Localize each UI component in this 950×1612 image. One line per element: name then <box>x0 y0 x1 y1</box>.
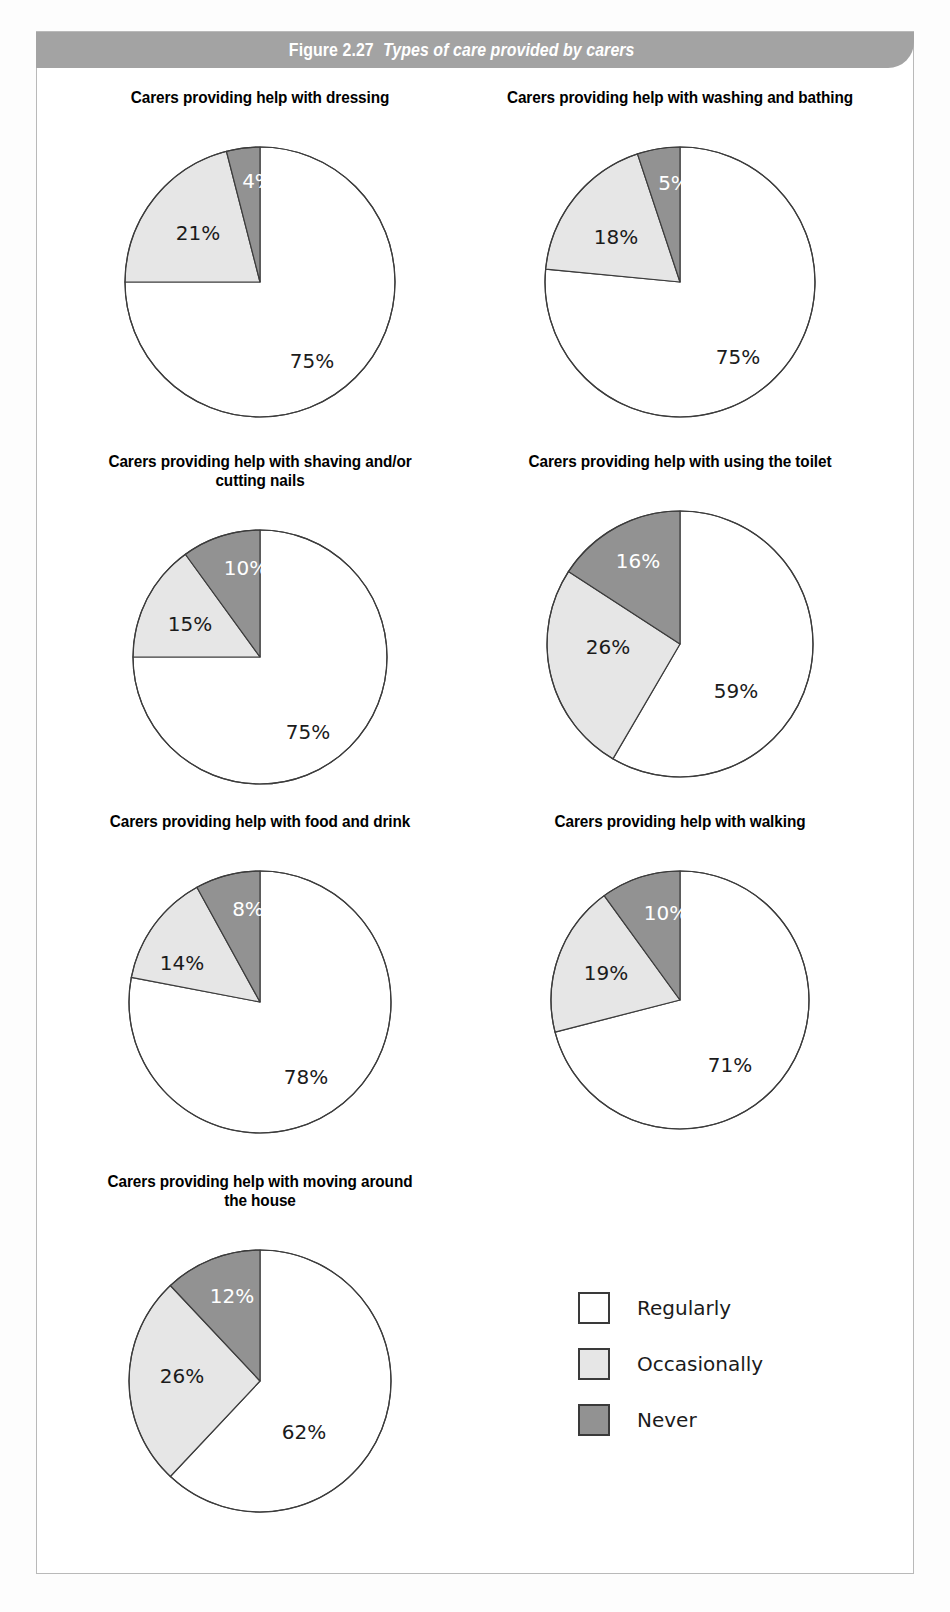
pie-label-never: 12% <box>210 1284 254 1308</box>
pie-label-occasionally: 15% <box>168 612 212 636</box>
chart-title-dressing: Carers providing help with dressing <box>65 88 456 107</box>
legend-item-never[interactable]: Never <box>578 1392 878 1448</box>
pie-washing-bathing: 75%18%5% <box>511 113 849 451</box>
legend-label-regularly: Regularly <box>637 1296 731 1320</box>
pie-label-occasionally: 26% <box>586 635 630 659</box>
legend-item-regularly[interactable]: Regularly <box>578 1280 878 1336</box>
legend-item-occasionally[interactable]: Occasionally <box>578 1336 878 1392</box>
pie-label-occasionally: 19% <box>584 961 628 985</box>
figure-header-text: Figure 2.27 Types of care provided by ca… <box>36 32 914 68</box>
pie-label-regularly: 59% <box>714 679 758 703</box>
pie-label-occasionally: 14% <box>160 951 204 975</box>
figure-page: Figure 2.27 Types of care provided by ca… <box>0 0 950 1612</box>
pie-chart-panel-walking: Carers providing help with walking71%19%… <box>460 812 900 1163</box>
pie-label-regularly: 78% <box>284 1065 328 1089</box>
pie-walking: 71%19%10% <box>517 837 843 1163</box>
chart-title-washing-bathing: Carers providing help with washing and b… <box>475 88 884 107</box>
pie-label-regularly: 71% <box>708 1053 752 1077</box>
chart-title-moving-around-house: Carers providing help with moving around… <box>65 1172 456 1210</box>
pie-label-never: 5% <box>658 171 690 195</box>
pie-label-occasionally: 18% <box>594 225 638 249</box>
pie-label-never: 10% <box>224 556 268 580</box>
figure-title: Types of care provided by carers <box>383 39 635 61</box>
pie-label-occasionally: 21% <box>176 221 220 245</box>
pie-label-regularly: 75% <box>286 720 330 744</box>
pie-food-drink: 78%14%8% <box>95 837 425 1167</box>
pie-label-occasionally: 26% <box>160 1364 204 1388</box>
legend-swatch-never <box>578 1404 610 1436</box>
legend-swatch-regularly <box>578 1292 610 1324</box>
pie-chart-panel-food-drink: Carers providing help with food and drin… <box>50 812 470 1167</box>
chart-title-using-toilet: Carers providing help with using the toi… <box>475 452 884 471</box>
legend-label-never: Never <box>637 1408 697 1432</box>
figure-header-banner: Figure 2.27 Types of care provided by ca… <box>36 32 914 68</box>
legend-swatch-occasionally <box>578 1348 610 1380</box>
pie-chart-panel-shaving-nails: Carers providing help with shaving and/o… <box>50 452 470 818</box>
pie-label-regularly: 62% <box>282 1420 326 1444</box>
pie-chart-panel-moving-around-house: Carers providing help with moving around… <box>50 1172 470 1546</box>
chart-legend: RegularlyOccasionallyNever <box>578 1280 878 1448</box>
pie-label-never: 10% <box>644 901 688 925</box>
pie-chart-panel-using-toilet: Carers providing help with using the toi… <box>460 452 900 811</box>
pie-label-never: 16% <box>616 549 660 573</box>
pie-using-toilet: 59%26%16% <box>513 477 847 811</box>
pie-moving-around-house: 62%26%12% <box>95 1216 425 1546</box>
pie-label-never: 4% <box>242 169 274 193</box>
pie-chart-panel-dressing: Carers providing help with dressing75%21… <box>50 88 470 451</box>
pie-chart-panel-washing-bathing: Carers providing help with washing and b… <box>460 88 900 451</box>
legend-label-occasionally: Occasionally <box>637 1352 763 1376</box>
pie-shaving-nails: 75%15%10% <box>99 496 421 818</box>
chart-title-shaving-nails: Carers providing help with shaving and/o… <box>65 452 456 490</box>
pie-dressing: 75%21%4% <box>91 113 429 451</box>
pie-label-regularly: 75% <box>290 349 334 373</box>
figure-number: Figure 2.27 <box>289 39 374 61</box>
chart-title-food-drink: Carers providing help with food and drin… <box>65 812 456 831</box>
pie-label-regularly: 75% <box>716 345 760 369</box>
chart-title-walking: Carers providing help with walking <box>475 812 884 831</box>
pie-label-never: 8% <box>232 897 264 921</box>
